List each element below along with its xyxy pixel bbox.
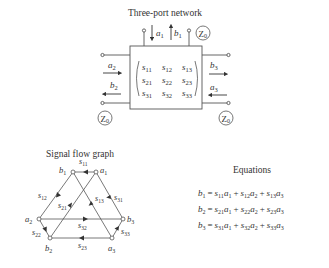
network-title: Three-port network <box>128 8 202 18</box>
edge-label-s13: s13 <box>95 194 104 204</box>
edge-label-s32: s32 <box>78 221 87 231</box>
matrix-s13: s13 <box>182 62 192 73</box>
z0-port-2: Z0 <box>98 111 112 125</box>
terminal-3b <box>227 101 230 104</box>
label-b2: b2 <box>110 80 118 91</box>
arrowhead-s31 <box>106 195 111 199</box>
arrowhead-s32 <box>83 217 88 222</box>
edge-label-s23: s23 <box>78 241 87 251</box>
label-a2: a2 <box>108 60 116 71</box>
port-1-waves: a1 b1 <box>152 25 182 40</box>
node-label-b2: b2 <box>45 243 52 254</box>
node-a3 <box>110 236 114 240</box>
port-2-waves: a2 b2 <box>103 60 121 94</box>
z0-port-3: Z0 <box>219 111 233 125</box>
equation-b3: b3=s31a1+s32a2+s33a3 <box>198 220 284 231</box>
edge-label-s21: s21 <box>58 201 67 211</box>
terminal-2b <box>101 101 104 104</box>
label-a3: a3 <box>210 82 218 93</box>
node-label-a1: a1 <box>100 165 107 176</box>
svg-text:Z0: Z0 <box>101 114 110 125</box>
edge-label-s22: s22 <box>32 228 41 238</box>
node-a2 <box>37 217 41 221</box>
arrowhead-s22 <box>42 227 46 232</box>
node-b3 <box>121 217 125 221</box>
matrix-s31: s31 <box>142 88 152 99</box>
node-label-b1: b1 <box>59 165 66 176</box>
terminal-2a <box>101 53 104 56</box>
label-b1: b1 <box>174 28 182 39</box>
arrowhead-s11 <box>83 170 88 175</box>
matrix-s23: s23 <box>182 75 192 86</box>
edge-label-s31: s31 <box>114 193 123 203</box>
terminal-1b <box>187 29 190 32</box>
edge-label-s33: s33 <box>121 227 130 237</box>
svg-text:Z0: Z0 <box>222 114 231 125</box>
equations-block: b1=s11a1+s12a2+s13a3 b2=s21a1+s22a2+s23a… <box>198 188 284 231</box>
terminal-1a <box>142 29 145 32</box>
node-a1 <box>94 170 98 174</box>
matrix-s21: s21 <box>142 75 152 86</box>
node-label-a3: a3 <box>108 243 115 254</box>
node-label-a2: a2 <box>25 214 32 225</box>
edge-label-s12: s12 <box>38 191 47 201</box>
arrowhead-s12 <box>56 192 61 198</box>
label-a1: a1 <box>156 28 164 39</box>
matrix-s22: s22 <box>162 75 172 86</box>
node-label-b3: b3 <box>127 214 134 225</box>
flow-graph-edge-labels: s11 s12 s13 s21 s22 s23 s31 s32 s33 <box>32 157 130 251</box>
terminal-3a <box>227 53 230 56</box>
equation-b1: b1=s11a1+s12a2+s13a3 <box>198 188 284 199</box>
label-b3: b3 <box>210 60 218 71</box>
node-b1 <box>71 170 75 174</box>
node-b2 <box>48 236 52 240</box>
equations-title: Equations <box>233 165 271 175</box>
matrix-s32: s32 <box>162 88 172 99</box>
diagram-canvas: Three-port network s11 s12 s13 s21 s22 s… <box>0 0 329 268</box>
arrowhead-s23 <box>79 236 84 241</box>
z0-port-1: Z0 <box>196 26 210 40</box>
matrix-s11: s11 <box>142 62 152 73</box>
network-box <box>130 46 202 109</box>
s-matrix: s11 s12 s13 s21 s22 s23 s31 s32 s33 <box>142 62 192 99</box>
matrix-s12: s12 <box>162 62 172 73</box>
svg-text:Z0: Z0 <box>199 29 208 40</box>
matrix-s33: s33 <box>182 88 192 99</box>
equation-b2: b2=s21a1+s22a2+s23a3 <box>198 204 284 215</box>
port-3-waves: b3 a3 <box>209 60 227 95</box>
